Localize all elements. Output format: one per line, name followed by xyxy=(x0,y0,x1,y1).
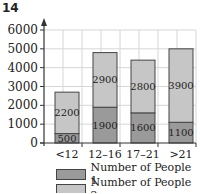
bar-value-label: 500 xyxy=(57,133,76,144)
legend-label-series2: Number of People 2 xyxy=(91,176,200,193)
y-axis-arrow-icon xyxy=(41,18,47,26)
bar-value-label: 2800 xyxy=(130,81,155,92)
stacked-bar-chart: 5002200<121900290012–161600280017–211100… xyxy=(0,0,200,160)
bar-value-label: 1900 xyxy=(92,120,117,131)
bar-value-label: 2200 xyxy=(54,107,79,118)
legend-item-series2: Number of People 2 xyxy=(56,176,200,193)
bar-value-label: 1100 xyxy=(168,127,193,138)
y-tick-label: 0 xyxy=(30,136,38,150)
bar-value-label: 2900 xyxy=(92,74,117,85)
y-tick-label: 4000 xyxy=(7,61,38,75)
y-tick-label: 6000 xyxy=(7,23,38,37)
x-tick-label: 12–16 xyxy=(88,148,122,160)
bar-value-label: 1600 xyxy=(130,122,155,133)
x-tick-label: 17–21 xyxy=(126,148,160,160)
x-tick-label: <12 xyxy=(55,148,78,160)
bar-value-label: 3900 xyxy=(168,80,193,91)
y-tick-label: 1000 xyxy=(7,117,38,131)
legend-swatch-series2 xyxy=(56,184,86,194)
y-tick-label: 5000 xyxy=(7,42,38,56)
y-tick-label: 2000 xyxy=(7,98,38,112)
y-tick-label: 3000 xyxy=(7,80,38,94)
x-tick-label: >21 xyxy=(169,148,192,160)
